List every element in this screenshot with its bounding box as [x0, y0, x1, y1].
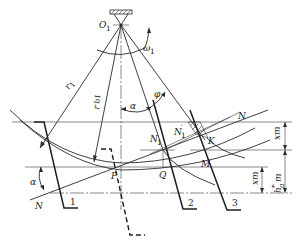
svg-text:α: α: [130, 101, 136, 111]
point-labels: P Q M K N 1 N 1 ′: [110, 123, 216, 181]
pivot-label: O 1: [99, 20, 111, 33]
pressure-angle-left: α: [30, 167, 44, 190]
svg-text:′: ′: [181, 123, 183, 132]
svg-text:xm: xm: [250, 171, 260, 185]
gear-circles: [10, 110, 270, 170]
svg-text:2: 2: [188, 198, 194, 208]
svg-text:φ: φ: [154, 89, 161, 99]
rack-tool-2: 2: [153, 100, 197, 209]
svg-text:α: α: [30, 177, 36, 187]
svg-text:P: P: [110, 171, 118, 181]
svg-text:xm: xm: [272, 126, 282, 140]
svg-text:3: 3: [232, 198, 238, 208]
angle-arc: α φ: [121, 89, 165, 112]
N1-label: N 1: [149, 134, 162, 147]
fixed-support-icon: [110, 10, 132, 27]
svg-text:1: 1: [157, 138, 162, 147]
svg-text:a: a: [277, 184, 286, 188]
svg-text:K: K: [207, 136, 216, 146]
svg-text:m: m: [273, 173, 283, 182]
pitch-radius-label: r 1: [62, 80, 77, 91]
svg-text:Q: Q: [159, 170, 167, 180]
svg-text:1: 1: [150, 47, 155, 56]
base-radius-label: r b1: [91, 93, 103, 110]
svg-text:N: N: [237, 111, 247, 121]
radial-lines: [40, 25, 205, 210]
gear-generation-diagram: O 1 ω 1 r 1 r b1 α: [0, 0, 301, 244]
rack-tool-1: 1: [34, 122, 78, 208]
dimension-annotations: xm xm h * a m: [250, 122, 287, 193]
N1-prime-label: N 1 ′: [173, 123, 186, 140]
svg-text:M: M: [200, 159, 211, 169]
line-of-action: N N: [30, 110, 268, 211]
rack-tool-3: 3: [190, 110, 241, 210]
svg-text:1: 1: [70, 197, 76, 207]
svg-text:b1: b1: [92, 93, 103, 104]
svg-text:1: 1: [181, 131, 186, 140]
svg-text:1: 1: [106, 24, 111, 33]
svg-text:N: N: [34, 201, 44, 211]
